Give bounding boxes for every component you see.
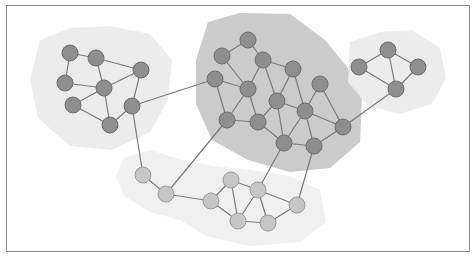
- node-I: [240, 32, 256, 48]
- node-d: [223, 172, 239, 188]
- node-V: [306, 138, 322, 154]
- node-L: [207, 71, 223, 87]
- node-M: [240, 81, 256, 97]
- node-f: [230, 213, 246, 229]
- node-B: [88, 50, 104, 66]
- node-P: [312, 76, 328, 92]
- node-O: [269, 93, 285, 109]
- node-F: [65, 97, 81, 113]
- node-H: [102, 117, 118, 133]
- node-R: [250, 114, 266, 130]
- node-b: [158, 186, 174, 202]
- node-J: [214, 48, 230, 64]
- node-a: [135, 167, 151, 183]
- node-U: [276, 135, 292, 151]
- node-E: [96, 80, 112, 96]
- node-G: [124, 98, 140, 114]
- node-W: [380, 42, 396, 58]
- node-Q: [219, 112, 235, 128]
- node-A: [62, 45, 78, 61]
- node-D: [57, 75, 73, 91]
- node-C: [133, 62, 149, 78]
- node-Y: [410, 59, 426, 75]
- node-T: [335, 119, 351, 135]
- node-e: [250, 182, 266, 198]
- node-h: [289, 197, 305, 213]
- node-K: [255, 52, 271, 68]
- node-S: [297, 103, 313, 119]
- node-Z: [388, 81, 404, 97]
- node-X: [351, 59, 367, 75]
- node-c: [203, 193, 219, 209]
- node-g: [260, 215, 276, 231]
- network-graph: [0, 0, 476, 259]
- node-N: [285, 61, 301, 77]
